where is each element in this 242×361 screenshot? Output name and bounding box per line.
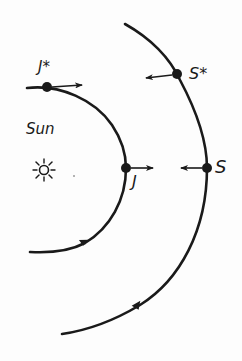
saturn-star-dot <box>172 69 182 79</box>
orbit-diagram: Sun J* S* J S <box>0 0 242 361</box>
inner-orbit-arc <box>27 87 126 252</box>
saturn-label: S <box>215 158 226 176</box>
saturn-star-label: S* <box>189 66 207 82</box>
jupiter-label: J <box>132 174 137 190</box>
jupiter-star-velocity-arrow <box>52 85 82 87</box>
jupiter-star-dot <box>42 82 52 92</box>
sun-icon <box>33 159 55 181</box>
saturn-star-velocity-arrow <box>146 75 172 78</box>
stray-dot <box>73 175 75 177</box>
jupiter-star-label: J* <box>38 60 50 75</box>
saturn-dot <box>202 163 212 173</box>
diagram-svg <box>0 0 242 361</box>
sun-label: Sun <box>26 122 55 137</box>
jupiter-dot <box>121 163 131 173</box>
